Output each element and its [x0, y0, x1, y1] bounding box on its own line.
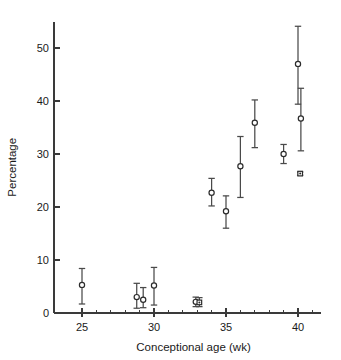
data-point-1 — [134, 295, 139, 300]
data-point-center-5 — [198, 301, 200, 303]
x-ticklabel-35: 35 — [220, 321, 232, 333]
data-point-center-13 — [299, 173, 301, 175]
x-ticklabel-40: 40 — [292, 321, 304, 333]
data-point-10 — [281, 151, 286, 156]
data-point-8 — [238, 164, 243, 169]
y-ticklabel-20: 20 — [37, 201, 49, 213]
y-ticklabel-0: 0 — [43, 307, 49, 319]
y-ticklabel-50: 50 — [37, 42, 49, 54]
data-point-7 — [223, 209, 228, 214]
data-point-9 — [252, 120, 257, 125]
data-point-12 — [298, 116, 303, 121]
y-axis-title: Percentage — [6, 138, 18, 197]
y-ticklabel-40: 40 — [37, 95, 49, 107]
scatter-plot: 0102030405025303540Conceptional age (wk)… — [0, 0, 341, 360]
x-ticklabel-25: 25 — [76, 321, 88, 333]
data-point-3 — [151, 283, 156, 288]
data-point-11 — [295, 61, 300, 66]
data-point-2 — [141, 297, 146, 302]
y-ticklabel-30: 30 — [37, 148, 49, 160]
figure-container: 0102030405025303540Conceptional age (wk)… — [0, 0, 341, 360]
x-axis-title: Conceptional age (wk) — [136, 341, 251, 353]
data-point-6 — [209, 190, 214, 195]
x-ticklabel-30: 30 — [148, 321, 160, 333]
data-point-0 — [79, 282, 84, 287]
y-ticklabel-10: 10 — [37, 254, 49, 266]
